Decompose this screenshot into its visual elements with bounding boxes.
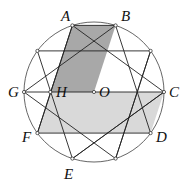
- label-D: D: [155, 129, 167, 145]
- point-Y: [114, 157, 117, 160]
- point-B: [114, 24, 117, 27]
- point-H: [49, 90, 52, 93]
- label-E: E: [63, 166, 73, 182]
- label-B: B: [121, 8, 130, 24]
- point-C: [162, 90, 165, 93]
- point-A: [71, 24, 74, 27]
- point-Z: [36, 49, 39, 52]
- geometry-diagram: ABGHOCFDE: [0, 0, 186, 186]
- label-O: O: [99, 84, 110, 100]
- point-O: [92, 90, 95, 93]
- label-G: G: [8, 84, 19, 100]
- point-E: [71, 157, 74, 160]
- label-F: F: [21, 129, 32, 145]
- point-G: [22, 90, 25, 93]
- point-F: [36, 132, 39, 135]
- label-A: A: [60, 8, 71, 24]
- label-H: H: [55, 84, 68, 100]
- point-D: [149, 132, 152, 135]
- point-X: [149, 49, 152, 52]
- parallelogram-ABOH: [50, 25, 115, 92]
- label-C: C: [169, 84, 180, 100]
